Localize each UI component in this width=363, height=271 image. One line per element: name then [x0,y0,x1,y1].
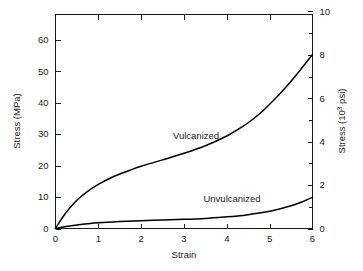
x-tick-label: 0 [53,233,58,244]
x-tick-label: 5 [267,233,272,244]
y2-tick-label: 2 [320,179,325,190]
y2-tick-label: 6 [320,93,325,104]
y2-tick-label: 10 [320,6,331,17]
x-tick-label: 2 [139,233,144,244]
y2-title-prefix: Stress (10 [336,110,347,153]
x-tick-label: 4 [224,233,229,244]
x-tick-label: 3 [181,233,186,244]
x-tick-label: 1 [96,233,101,244]
curve-label-unvulcanized: Unvulcanized [203,193,260,204]
y2-tick-label: 4 [320,136,325,147]
curve-label-vulcanized: Vulcanized [173,130,219,141]
y2-tick-label: 0 [320,223,325,234]
y-tick-label: 40 [38,97,49,108]
y2-axis-title: Stress (103 psi) [336,89,347,154]
stress-strain-chart: 0123456 0102030405060 0246810 Vulcanized… [0,0,363,271]
y-tick-label: 60 [38,34,49,45]
y-tick-label: 0 [43,223,48,234]
y-tick-label: 30 [38,128,49,139]
y2-title-suffix: psi) [336,89,347,107]
y-tick-label: 10 [38,191,49,202]
y-tick-label: 20 [38,160,49,171]
chart-canvas: 0123456 0102030405060 0246810 Vulcanized… [0,0,363,271]
y-tick-label: 50 [38,66,49,77]
x-tick-label: 6 [310,233,315,244]
x-axis-title: Strain [172,249,197,260]
y2-tick-label: 8 [320,49,325,60]
y-axis-title: Stress (MPa) [11,93,22,148]
